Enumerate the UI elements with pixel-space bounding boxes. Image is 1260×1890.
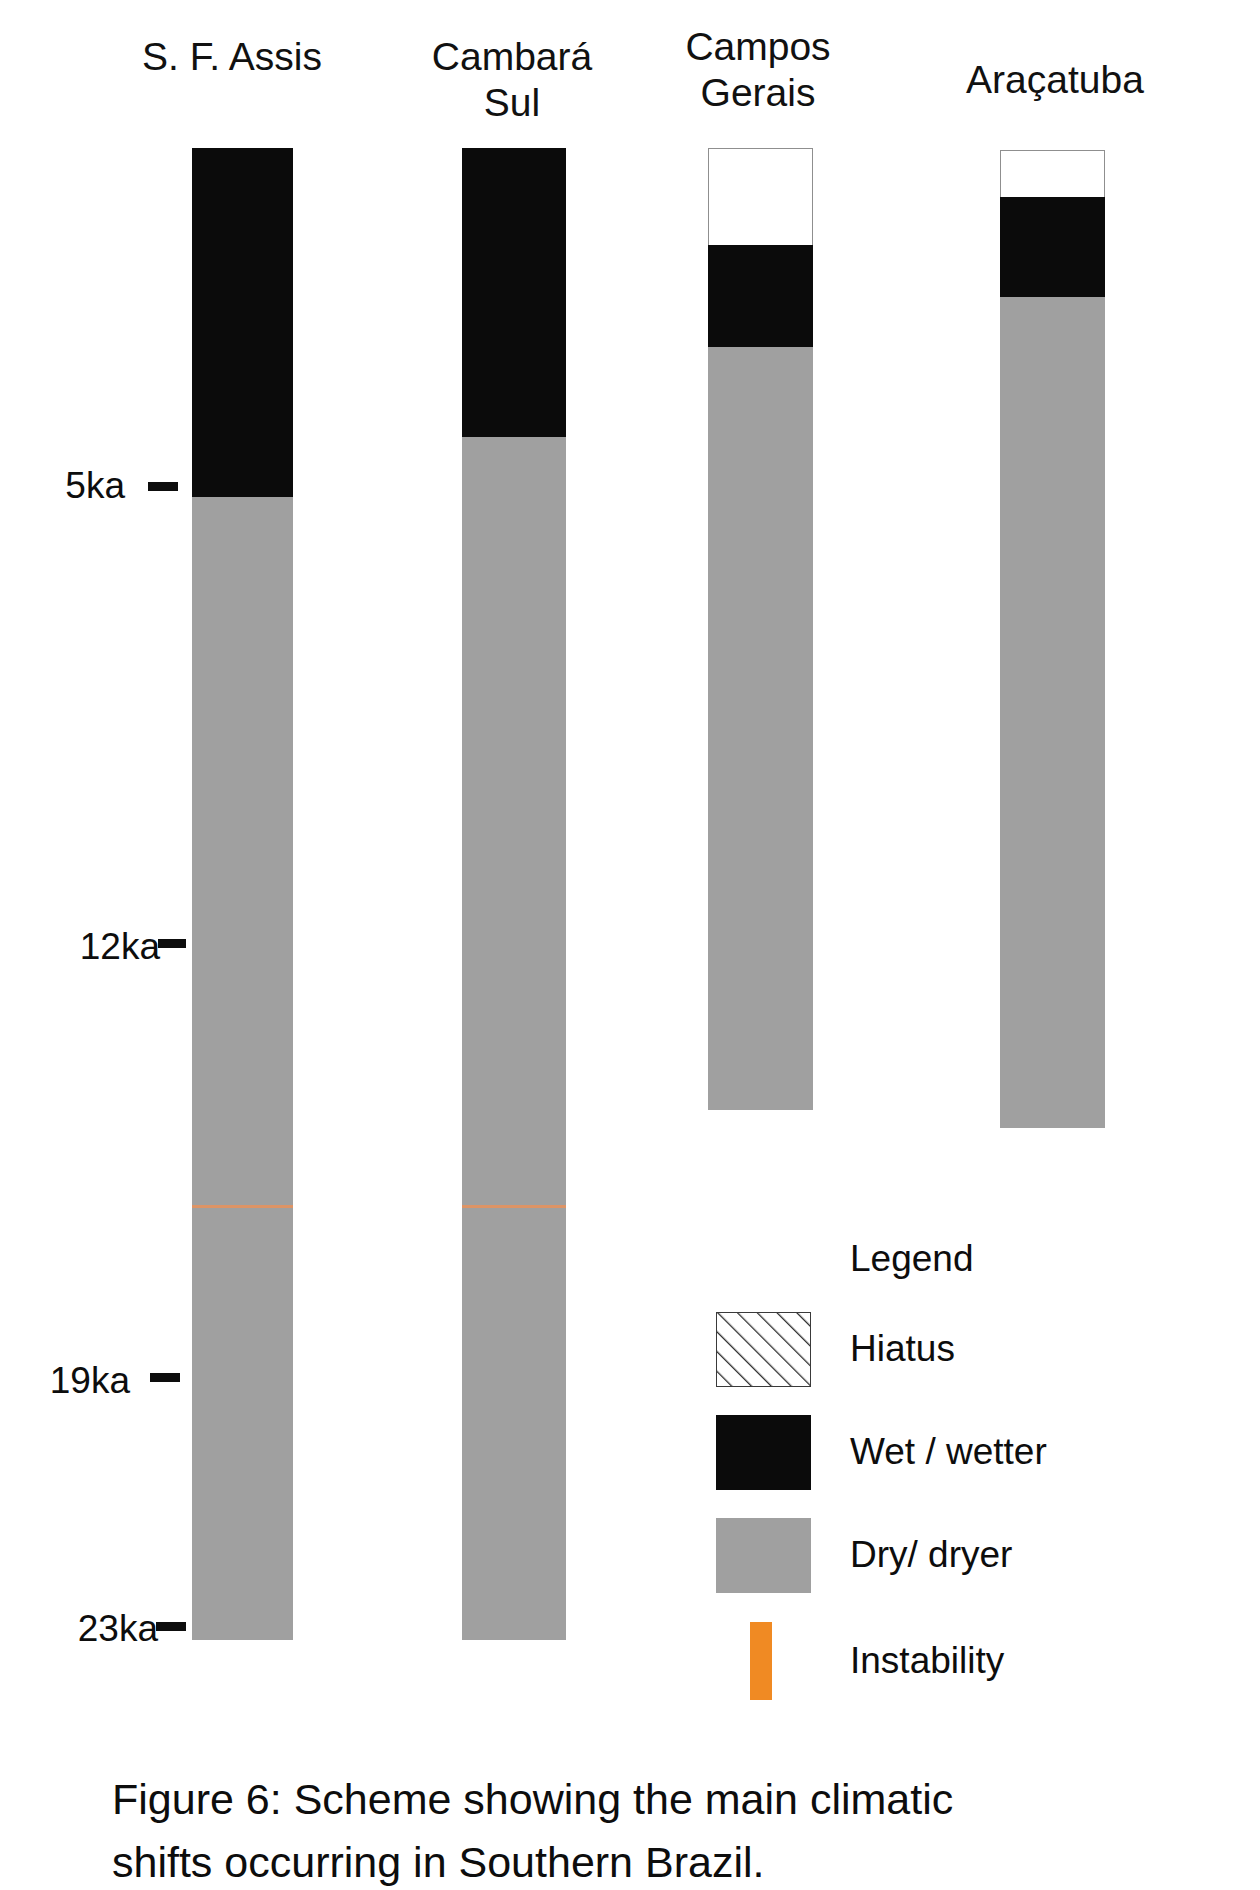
- legend-item-dry: Dry/ dryer: [710, 1518, 1250, 1596]
- instability-marker-cambara-sul: [462, 1205, 566, 1208]
- axis-tick-label-12ka: 12ka: [0, 928, 160, 965]
- segment-hiatus-aracatuba: [1000, 150, 1105, 197]
- hatched-swatch-icon: [716, 1312, 811, 1387]
- legend-item-wet: Wet / wetter: [710, 1415, 1250, 1493]
- legend-item-instability: Instability: [710, 1622, 1250, 1700]
- legend: Legend Hiatus Wet / wetter: [710, 1240, 1250, 1640]
- legend-item-hiatus: Hiatus: [710, 1312, 1250, 1390]
- legend-label-hiatus: Hiatus: [850, 1330, 955, 1367]
- segment-dry-aracatuba: [1000, 297, 1105, 1128]
- bar-campos-gerais: [708, 148, 813, 1110]
- bar-aracatuba: [1000, 150, 1105, 1128]
- segment-wet-aracatuba: [1000, 197, 1105, 297]
- column-header-sf-assis: S. F. Assis: [92, 34, 372, 80]
- axis-tick-mark-19ka: [150, 1373, 180, 1382]
- axis-tick-mark-12ka: [158, 939, 186, 948]
- bar-sf-assis: [192, 148, 293, 1640]
- axis-tick-mark-23ka: [156, 1622, 186, 1631]
- legend-label-dry: Dry/ dryer: [850, 1536, 1012, 1573]
- instability-marker-sf-assis: [192, 1205, 293, 1208]
- segment-dry-campos-gerais: [708, 347, 813, 1110]
- segment-wet-campos-gerais: [708, 245, 813, 347]
- column-header-cambara-sul: Cambará Sul: [372, 34, 652, 126]
- segment-wet-sf-assis: [192, 148, 293, 497]
- legend-title: Legend: [850, 1240, 973, 1277]
- axis-tick-label-5ka: 5ka: [0, 467, 125, 504]
- column-header-aracatuba: Araçatuba: [910, 57, 1200, 103]
- segment-dry-sf-assis: [192, 497, 293, 1640]
- axis-tick-mark-5ka: [148, 482, 178, 491]
- orange-bar-swatch-icon: [750, 1622, 772, 1700]
- bar-cambara-sul: [462, 148, 566, 1640]
- legend-label-instability: Instability: [850, 1642, 1004, 1679]
- axis-tick-label-19ka: 19ka: [0, 1362, 130, 1399]
- legend-label-wet: Wet / wetter: [850, 1433, 1047, 1470]
- column-header-campos-gerais: Campos Gerais: [618, 24, 898, 116]
- figure-caption: Figure 6: Scheme showing the main climat…: [112, 1768, 1152, 1890]
- axis-tick-label-23ka: 23ka: [0, 1610, 158, 1647]
- segment-hiatus-campos-gerais: [708, 148, 813, 245]
- segment-wet-cambara-sul: [462, 148, 566, 437]
- segment-dry-cambara-sul: [462, 437, 566, 1640]
- black-swatch-icon: [716, 1415, 811, 1490]
- gray-swatch-icon: [716, 1518, 811, 1593]
